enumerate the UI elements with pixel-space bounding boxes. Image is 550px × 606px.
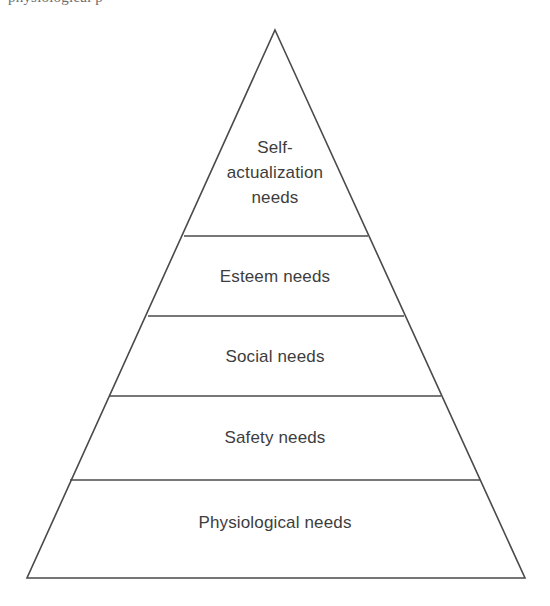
pyramid-outline-triangle: [27, 30, 525, 578]
pyramid-outline-svg: [0, 0, 550, 606]
pyramid-diagram: physiological p Self- actualization need…: [0, 0, 550, 606]
